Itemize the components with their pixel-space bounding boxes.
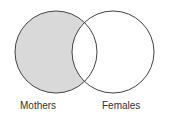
mothers-label: Mothers <box>20 100 56 112</box>
venn-diagram <box>0 0 169 116</box>
females-label: Females <box>102 100 140 112</box>
